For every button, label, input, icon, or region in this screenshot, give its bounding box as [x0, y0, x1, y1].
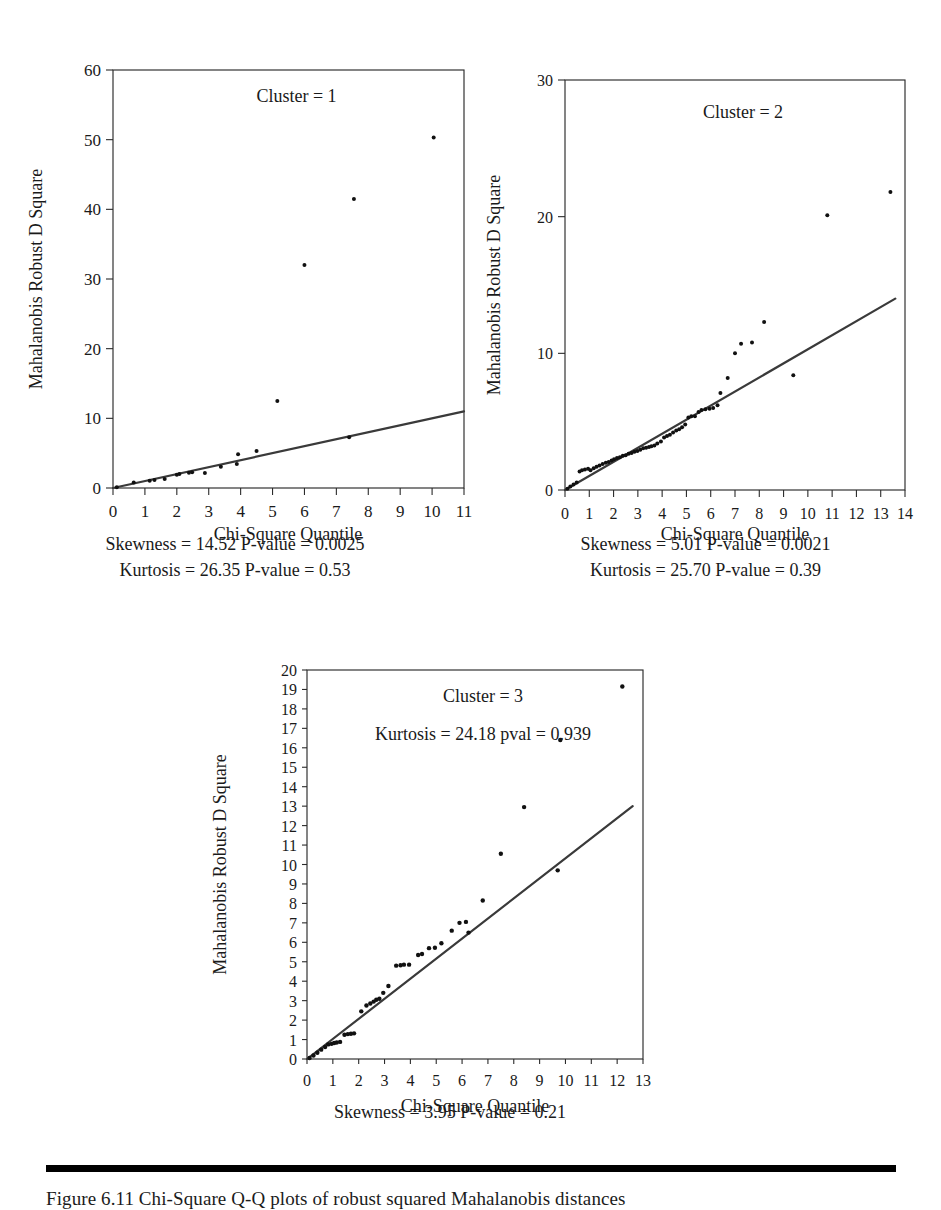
- x-axis-tick-label: 10: [424, 502, 441, 521]
- data-point: [699, 408, 703, 412]
- y-axis-tick-label: 19: [281, 681, 297, 698]
- y-axis-tick-label: 7: [289, 915, 297, 932]
- x-axis-tick-label: 7: [332, 502, 341, 521]
- x-axis-tick-label: 5: [682, 505, 690, 522]
- data-point: [481, 898, 485, 902]
- data-point: [203, 471, 207, 475]
- data-point: [148, 479, 152, 483]
- data-point: [703, 407, 707, 411]
- data-point: [307, 1056, 311, 1060]
- x-axis-tick-label: 6: [707, 505, 715, 522]
- x-axis-tick-label: 1: [141, 502, 150, 521]
- y-axis-tick-label: 40: [84, 200, 101, 219]
- data-point: [708, 407, 712, 411]
- y-axis-tick-label: 9: [289, 876, 297, 893]
- data-point: [680, 425, 684, 429]
- x-axis-tick-label: 8: [510, 1072, 518, 1089]
- data-point: [275, 399, 279, 403]
- data-point: [750, 340, 754, 344]
- data-point: [655, 442, 659, 446]
- data-point: [311, 1053, 315, 1057]
- y-axis-tick-label: 12: [281, 818, 297, 835]
- y-axis-tick-label: 5: [289, 954, 297, 971]
- data-point: [315, 1051, 319, 1055]
- y-axis-tick-label: 50: [84, 131, 101, 150]
- x-axis-tick-label: 2: [610, 505, 618, 522]
- x-axis-tick-label: 5: [268, 502, 277, 521]
- panel-title: Cluster = 1: [256, 86, 336, 106]
- data-point: [152, 478, 156, 482]
- panel-title: Cluster = 2: [703, 102, 783, 122]
- data-point: [575, 480, 579, 484]
- data-point: [347, 435, 351, 439]
- data-point: [433, 946, 437, 950]
- y-axis-tick-label: 2: [289, 1012, 297, 1029]
- stats-line-2a: Skewness = 5.01 P-value = 0.0021: [470, 532, 941, 556]
- reference-line: [565, 299, 895, 490]
- data-point: [432, 136, 436, 140]
- y-axis-tick-label: 20: [281, 662, 297, 679]
- data-point: [190, 470, 194, 474]
- data-point: [726, 376, 730, 380]
- data-point: [683, 422, 687, 426]
- data-point: [377, 997, 381, 1001]
- y-axis-tick-label: 10: [537, 345, 553, 362]
- y-axis-tick-label: 8: [289, 895, 297, 912]
- data-point: [762, 320, 766, 324]
- data-point: [402, 962, 406, 966]
- data-point: [711, 406, 715, 410]
- x-axis-tick-label: 9: [780, 505, 788, 522]
- data-point: [457, 921, 461, 925]
- chart-panel-cluster-3: 0123456789101112130123456789101112131415…: [190, 660, 710, 1160]
- y-axis-tick-label: 11: [282, 837, 297, 854]
- data-point: [556, 868, 560, 872]
- x-axis-tick-label: 8: [364, 502, 373, 521]
- data-point: [522, 805, 526, 809]
- y-axis-title: Mahalanobis Robust D Square: [484, 175, 504, 395]
- data-point: [439, 941, 443, 945]
- stats-line-1b: Kurtosis = 26.35 P-value = 0.53: [0, 558, 470, 582]
- data-point: [420, 952, 424, 956]
- x-axis-tick-label: 0: [109, 502, 118, 521]
- x-axis-tick-label: 11: [584, 1072, 599, 1089]
- panel-subtitle: Kurtosis = 24.18 pval = 0.939: [375, 724, 591, 744]
- y-axis-tick-label: 10: [281, 857, 297, 874]
- data-point: [302, 263, 306, 267]
- data-point: [394, 963, 398, 967]
- data-point: [791, 373, 795, 377]
- plot-frame: [113, 70, 464, 488]
- x-axis-tick-label: 4: [406, 1072, 414, 1089]
- x-axis-tick-label: 12: [609, 1072, 625, 1089]
- data-point: [499, 852, 503, 856]
- data-point: [115, 485, 119, 489]
- x-axis-tick-label: 3: [204, 502, 213, 521]
- data-point: [352, 1031, 356, 1035]
- x-axis-tick-label: 12: [848, 505, 864, 522]
- y-axis-tick-label: 0: [93, 479, 102, 498]
- x-axis-tick-label: 0: [303, 1072, 311, 1089]
- x-axis-tick-label: 2: [355, 1072, 363, 1089]
- chart-panel-cluster-1: 012345678910110102030405060Cluster = 1Ch…: [0, 40, 470, 600]
- x-axis-tick-label: 7: [484, 1072, 492, 1089]
- data-point: [427, 946, 431, 950]
- y-axis-tick-label: 13: [281, 798, 297, 815]
- stats-line-1a: Skewness = 14.52 P-value = 0.0025: [0, 532, 470, 556]
- x-axis-tick-label: 13: [635, 1072, 651, 1089]
- data-point: [464, 920, 468, 924]
- data-point: [381, 991, 385, 995]
- qq-plot-cluster-3: 0123456789101112130123456789101112131415…: [190, 660, 710, 1115]
- x-axis-tick-label: 6: [300, 502, 309, 521]
- plot-frame: [565, 80, 905, 490]
- x-axis-tick-label: 1: [329, 1072, 337, 1089]
- y-axis-title: Mahalanobis Robust D Square: [26, 169, 46, 389]
- x-axis-tick-label: 14: [897, 505, 913, 522]
- panel-title: Cluster = 3: [443, 686, 523, 706]
- y-axis-title: Mahalanobis Robust D Square: [210, 754, 230, 974]
- data-point: [693, 414, 697, 418]
- x-axis-tick-label: 1: [585, 505, 593, 522]
- x-axis-tick-label: 3: [381, 1072, 389, 1089]
- x-axis-tick-label: 4: [236, 502, 245, 521]
- stats-line-3a: Skewness = 3.95 P-value = 0.21: [190, 1100, 710, 1124]
- y-axis-tick-label: 1: [289, 1032, 297, 1049]
- reference-line: [113, 411, 464, 488]
